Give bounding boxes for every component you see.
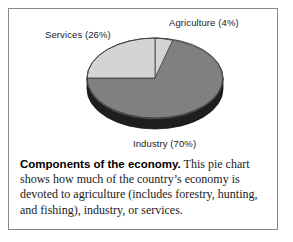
pie-label-services: Services (26%) <box>45 29 111 40</box>
pie-slice-services[interactable] <box>87 38 155 78</box>
caption-lead-in: Components of the economy. <box>20 158 181 170</box>
figure-container: Services (26%) Agriculture (4%) Industry… <box>0 0 293 242</box>
figure-caption: Components of the economy. This pie char… <box>20 157 270 218</box>
pie-label-industry: Industry (70%) <box>133 138 196 149</box>
pie-chart: Services (26%) Agriculture (4%) Industry… <box>9 9 277 157</box>
pie-label-agriculture: Agriculture (4%) <box>169 17 239 28</box>
